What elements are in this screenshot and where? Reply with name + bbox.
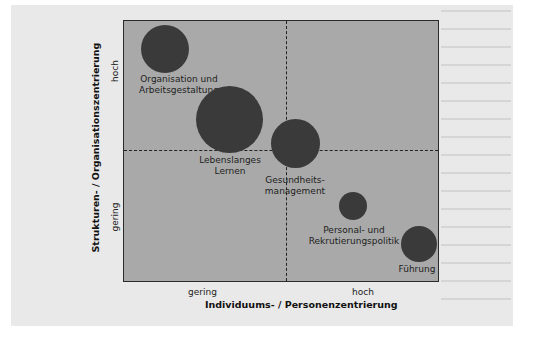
label-personalpolitik: Personal- und Rekrutierungspolitik bbox=[304, 225, 404, 247]
bubble-lebenslanges-lernen bbox=[196, 86, 263, 153]
label-gesundheitsmanagement: Gesundheits- management bbox=[255, 175, 335, 197]
bubble-fuehrung bbox=[401, 226, 437, 262]
label-lebenslanges-lernen: Lebenslanges Lernen bbox=[190, 155, 270, 177]
bubble-gesundheitsmanagement bbox=[271, 119, 320, 168]
x-tick-high: hoch bbox=[352, 287, 374, 297]
label-fuehrung: Führung bbox=[392, 264, 442, 275]
bubble-organisation bbox=[141, 25, 189, 73]
x-axis-title: Individuums- / Personenzentrierung bbox=[205, 299, 398, 310]
plot-area: Organisation und Arbeitsgestaltung Leben… bbox=[123, 20, 439, 282]
bubble-personalpolitik bbox=[339, 192, 367, 220]
y-tick-low: gering bbox=[110, 200, 120, 234]
background-text-lines bbox=[441, 10, 511, 310]
y-axis-title: Strukturen- / Organisationszentrierung bbox=[90, 53, 101, 253]
y-tick-high: hoch bbox=[110, 56, 120, 86]
x-tick-low: gering bbox=[188, 287, 217, 297]
